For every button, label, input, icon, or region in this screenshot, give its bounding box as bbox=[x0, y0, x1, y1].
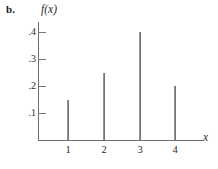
x-tick-label: 3 bbox=[131, 144, 149, 155]
y-axis-line bbox=[38, 22, 39, 141]
x-tick-label: 4 bbox=[166, 144, 184, 155]
probability-mass-function-figure: b. f(x) x .4 .3 .2 .1 1 2 3 4 bbox=[0, 0, 218, 169]
x-tick-label-wrap: 2 bbox=[95, 144, 113, 158]
y-tick-mark bbox=[39, 32, 46, 33]
y-tick-label: .2 bbox=[22, 80, 36, 91]
y-tick-label-wrap: .3 bbox=[20, 53, 36, 65]
y-tick-label-wrap: .1 bbox=[20, 107, 36, 119]
y-tick-mark bbox=[39, 113, 46, 114]
y-tick-label-wrap: .4 bbox=[20, 26, 36, 38]
spike-bar bbox=[67, 100, 69, 141]
y-tick-mark bbox=[39, 59, 46, 60]
x-tick-label-wrap: 1 bbox=[59, 144, 77, 158]
y-tick-label: .3 bbox=[22, 53, 36, 64]
x-axis-label: x bbox=[203, 131, 208, 143]
x-tick-label: 2 bbox=[95, 144, 113, 155]
y-tick-label: .4 bbox=[22, 26, 36, 37]
x-tick-label-wrap: 3 bbox=[131, 144, 149, 158]
y-tick-label: .1 bbox=[22, 107, 36, 118]
spike-bar bbox=[174, 86, 176, 140]
spike-bar bbox=[139, 32, 141, 140]
x-tick-label-wrap: 4 bbox=[166, 144, 184, 158]
spike-bar bbox=[103, 73, 105, 141]
y-axis-label: f(x) bbox=[41, 3, 57, 15]
x-axis-line bbox=[38, 140, 203, 141]
x-tick-label: 1 bbox=[59, 144, 77, 155]
y-tick-label-wrap: .2 bbox=[20, 80, 36, 92]
part-label: b. bbox=[6, 3, 15, 15]
y-tick-mark bbox=[39, 86, 46, 87]
